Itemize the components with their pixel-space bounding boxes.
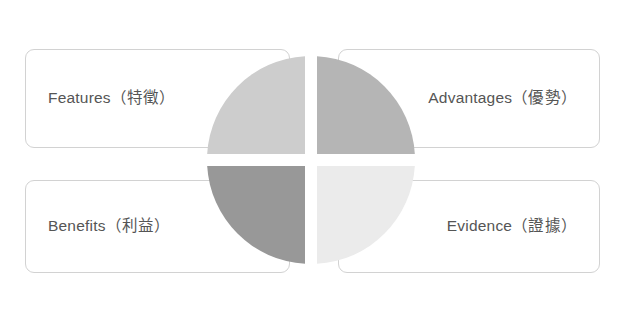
card-features-label: Features（特徵） [48, 89, 176, 108]
card-advantages-label: Advantages（優勢） [428, 89, 577, 108]
card-evidence-label: Evidence（證據） [447, 217, 577, 236]
card-benefits[interactable]: Benefits（利益） [25, 180, 290, 273]
card-benefits-label: Benefits（利益） [48, 217, 170, 236]
card-advantages[interactable]: Advantages（優勢） [338, 49, 600, 148]
card-evidence[interactable]: Evidence（證據） [338, 180, 600, 273]
diagram-canvas: Features（特徵） Advantages（優勢） Benefits（利益）… [0, 0, 622, 317]
card-features[interactable]: Features（特徵） [25, 49, 290, 148]
